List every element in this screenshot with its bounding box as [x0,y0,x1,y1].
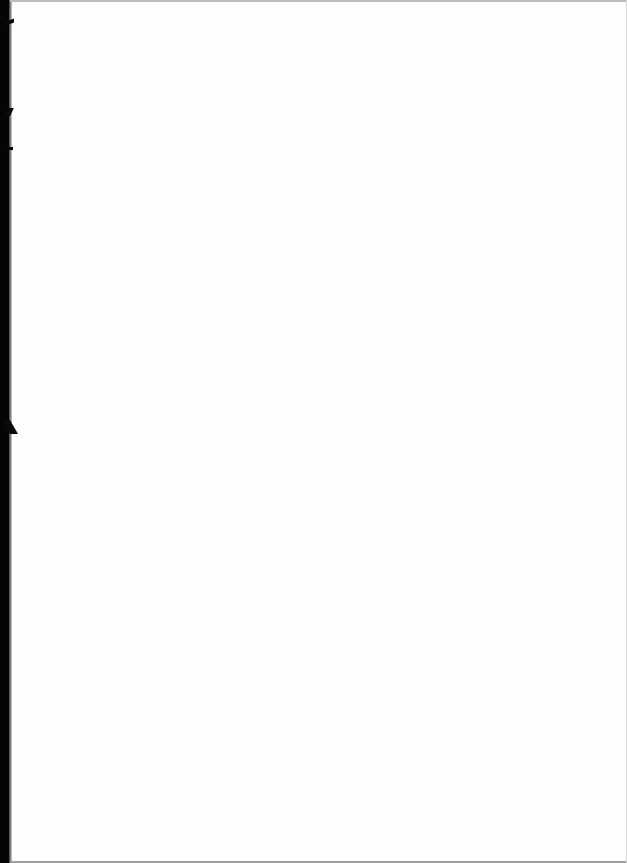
blank-scanned-page [0,0,627,863]
edge-artifact [6,147,13,150]
page-top-border [10,0,627,2]
